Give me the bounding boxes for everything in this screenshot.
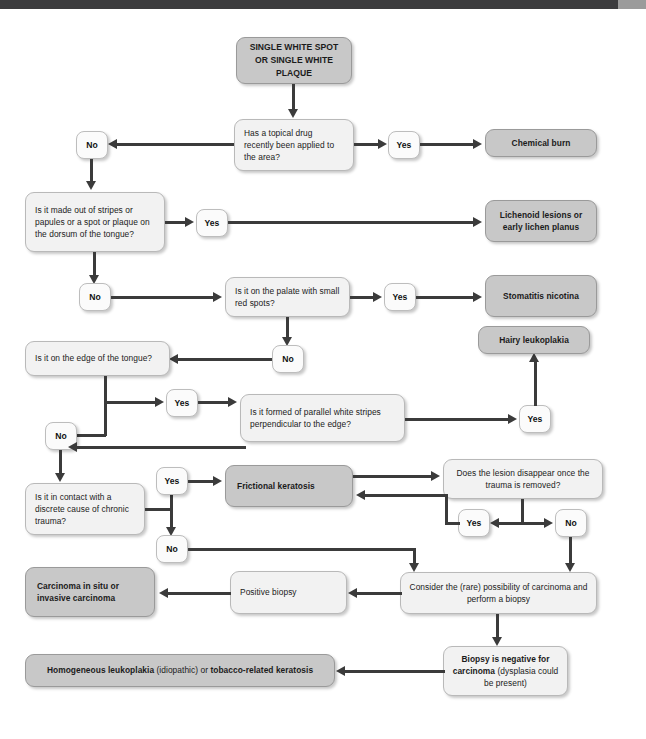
arrowhead-no-to-edge-tongue: [169, 354, 178, 364]
arrowhead-yes-to-frictional: [213, 476, 222, 486]
pill-palate-no-label: No: [282, 354, 293, 364]
arrowhead-trauma-no-to-consider: [409, 563, 419, 572]
pill-parallel-yes-label: Yes: [528, 414, 543, 424]
arrowhead-yes-to-lichenoid: [473, 217, 482, 227]
connector-edge-spine-to-no: [76, 434, 106, 437]
arrowhead-edge-no-down: [55, 473, 65, 482]
arrowhead-yes-to-hairy-leukoplakia: [529, 353, 539, 362]
pill-topical-no-label: No: [86, 140, 97, 150]
page-header-accent: [618, 0, 646, 9]
arrowhead-no-to-consider: [565, 563, 575, 572]
node-action-consider-carcinoma-label: Consider the (rare) possibility of carci…: [408, 581, 589, 605]
arrowhead-to-lesion-disappear: [431, 471, 440, 481]
connector-edge-yes-to-stripes: [198, 401, 230, 404]
node-question-palate-red-spots-label: Is it on the palate with small red spots…: [235, 285, 340, 309]
node-question-topical-drug: Has a topical drug recently been applied…: [234, 119, 354, 171]
node-result-lichenoid: Lichenoid lesions or early lichen planus: [485, 200, 597, 242]
pill-topical-yes-label: Yes: [397, 140, 412, 150]
node-result-lichenoid-label: Lichenoid lesions or early lichen planus: [493, 209, 589, 233]
arrowhead-to-positive-biopsy: [348, 588, 357, 598]
homogeneous-mid: (idiopathic) or: [154, 665, 210, 675]
node-action-consider-carcinoma: Consider the (rare) possibility of carci…: [400, 572, 597, 614]
connector-stripes-yes: [165, 221, 187, 224]
pill-lesion-no: No: [555, 509, 587, 537]
connector-topical-no-down: [90, 159, 93, 183]
pill-trauma-no-label: No: [166, 544, 177, 554]
node-question-lesion-disappear: Does the lesion disappear once the traum…: [443, 459, 603, 499]
connector-palate-yes: [350, 296, 375, 299]
pill-stripes-yes-label: Yes: [205, 218, 220, 228]
arrowhead-no-to-palate: [213, 292, 222, 302]
node-result-homogeneous-leukoplakia-label: Homogeneous leukoplakia (idiopathic) or …: [33, 664, 327, 676]
connector-consider-to-positive-biopsy: [356, 592, 402, 595]
node-result-carcinoma-label: Carcinoma in situ or invasive carcinoma: [37, 580, 143, 604]
flowchart-page: SINGLE WHITE SPOT OR SINGLE WHITE PLAQUE…: [0, 0, 646, 739]
node-result-chemical-burn-label: Chemical burn: [493, 137, 589, 149]
node-result-homogeneous-leukoplakia: Homogeneous leukoplakia (idiopathic) or …: [25, 654, 335, 687]
connector-edge-no-down: [59, 450, 62, 475]
connector-palate-yes-to-stomatitis: [416, 296, 475, 299]
node-result-biopsy-negative-label: Biopsy is negative for carcinoma (dyspla…: [451, 653, 560, 690]
pill-stripes-yes: Yes: [196, 209, 228, 237]
node-result-frictional-keratosis-label: Frictional keratosis: [237, 480, 341, 492]
page-header-bar: [0, 0, 646, 9]
arrowhead-yes-to-chemical-burn: [473, 139, 482, 149]
connector-trauma-yes-to-frictional: [188, 480, 215, 483]
pill-trauma-no: No: [156, 535, 188, 563]
pill-trauma-yes: Yes: [156, 467, 188, 495]
pill-palate-no: No: [272, 345, 304, 373]
pill-lesion-no-label: No: [565, 518, 576, 528]
pill-stripes-no-label: No: [89, 292, 100, 302]
connector-stripes-yes-to-lichenoid: [228, 221, 475, 224]
node-start-label: SINGLE WHITE SPOT OR SINGLE WHITE PLAQUE: [245, 41, 343, 80]
pill-edge-yes: Yes: [166, 389, 198, 417]
node-result-hairy-leukoplakia-label: Hairy leukoplakia: [486, 334, 582, 346]
arrowhead-stripes-yes: [185, 217, 194, 227]
arrowhead-edge-yes: [155, 397, 164, 407]
connector-palate-no-to-edge: [178, 358, 272, 361]
arrowhead-to-biopsy-negative: [492, 637, 502, 646]
connector-trauma-out: [145, 508, 171, 511]
node-question-parallel-stripes-label: Is it formed of parallel white stripes p…: [250, 406, 395, 430]
arrowhead-parallel-yes: [508, 414, 517, 424]
connector-edge-yes: [104, 401, 157, 404]
node-question-stripes-papules: Is it made out of stripes or papules or …: [25, 192, 165, 252]
node-result-carcinoma: Carcinoma in situ or invasive carcinoma: [25, 567, 155, 617]
arrowhead-lesion-no: [544, 518, 553, 528]
connector-parallel-yes: [405, 418, 510, 421]
connector-topical-yes: [354, 143, 380, 146]
arrowhead-topical-no: [108, 139, 117, 149]
pill-edge-no-label: No: [55, 431, 66, 441]
arrowhead-to-carcinoma: [159, 588, 168, 598]
homogeneous-bold-1: Homogeneous leukoplakia: [47, 665, 154, 675]
node-question-parallel-stripes: Is it formed of parallel white stripes p…: [240, 394, 405, 442]
arrowhead-parallel-no-to-edge-no: [68, 442, 77, 452]
connector-consider-down: [496, 614, 499, 639]
arrowhead-topical-no-down: [86, 181, 96, 190]
connector-lesion-down: [521, 499, 524, 523]
connector-biopsy-negative-to-homogeneous: [344, 670, 445, 673]
pill-palate-yes: Yes: [384, 283, 416, 311]
arrowhead-palate-yes: [373, 292, 382, 302]
node-result-frictional-keratosis: Frictional keratosis: [225, 465, 353, 507]
connector-edge-spine: [104, 376, 107, 436]
pill-trauma-yes-label: Yes: [165, 476, 180, 486]
connector-lesion-yes-back: [365, 494, 448, 497]
arrowhead-topical-yes: [378, 139, 387, 149]
pill-parallel-yes: Yes: [519, 405, 551, 433]
pill-topical-no: No: [76, 131, 108, 159]
node-result-stomatitis: Stomatitis nicotina: [485, 275, 597, 317]
pill-lesion-yes-label: Yes: [467, 518, 482, 528]
connector-topical-yes-to-burn: [420, 143, 475, 146]
pill-lesion-yes: Yes: [458, 509, 490, 537]
arrowhead-yes-to-parallel-stripes: [228, 397, 237, 407]
node-result-biopsy-negative: Biopsy is negative for carcinoma (dyspla…: [443, 646, 568, 696]
connector-lesion-split: [498, 522, 546, 525]
node-result-stomatitis-label: Stomatitis nicotina: [493, 290, 589, 302]
node-question-chronic-trauma: Is it in contact with a discrete cause o…: [25, 483, 145, 535]
connector-stripes-no-down: [93, 252, 96, 277]
node-question-stripes-papules-label: Is it made out of stripes or papules or …: [35, 204, 155, 241]
connector-palate-no-down: [286, 317, 289, 339]
node-question-palate-red-spots: Is it on the palate with small red spots…: [225, 277, 350, 317]
node-result-positive-biopsy-label: Positive biopsy: [240, 586, 337, 598]
